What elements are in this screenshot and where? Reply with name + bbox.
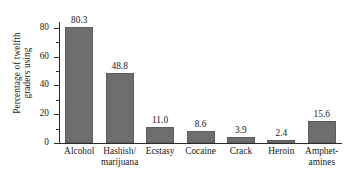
x-category-label-line: amines: [296, 157, 348, 168]
bar-chart: Percentage of twelfth graders using 0204…: [0, 0, 359, 180]
y-tick-major: [54, 143, 59, 144]
bar-value-label: 48.8: [100, 62, 140, 71]
x-category-label-line: Crack: [230, 146, 252, 156]
x-axis-line: [59, 143, 342, 144]
bar: [267, 140, 295, 143]
bar: [227, 137, 255, 143]
bar-value-label: 11.0: [140, 116, 180, 125]
y-axis-title-line-2: graders using: [22, 32, 32, 114]
bar: [146, 127, 174, 143]
y-tick-label: 0: [31, 138, 49, 147]
bar: [187, 131, 215, 143]
x-category-label-line: Amphet-: [305, 146, 338, 156]
x-category-label-line: Heroin: [268, 146, 294, 156]
bar-value-label: 3.9: [221, 126, 261, 135]
y-tick-label: 20: [31, 109, 49, 118]
bar: [308, 121, 336, 143]
bar-value-label: 8.6: [181, 120, 221, 129]
x-category-label-line: Cocaine: [185, 146, 216, 156]
x-axis-category-labels: AlcoholHashish/marijuanaEcstasyCocaineCr…: [59, 146, 342, 178]
y-tick-label: 80: [31, 23, 49, 32]
y-axis-title-line-1: Percentage of twelfth: [12, 32, 22, 114]
x-category-label-line: Alcohol: [64, 146, 94, 156]
x-category-label-line: Ecstasy: [146, 146, 175, 156]
bars-container: 80.348.811.08.63.92.415.6: [59, 22, 342, 143]
bar-value-label: 80.3: [59, 16, 99, 25]
y-tick-label: 60: [31, 52, 49, 61]
bar-value-label: 15.6: [302, 110, 342, 119]
x-category-label: Amphet-amines: [296, 146, 348, 167]
bar: [106, 73, 134, 143]
y-tick-label: 40: [31, 80, 49, 89]
x-category-label-line: marijuana: [94, 157, 146, 168]
bar-value-label: 2.4: [261, 129, 301, 138]
x-category-label-line: Hashish/: [103, 146, 136, 156]
bar: [65, 27, 93, 143]
